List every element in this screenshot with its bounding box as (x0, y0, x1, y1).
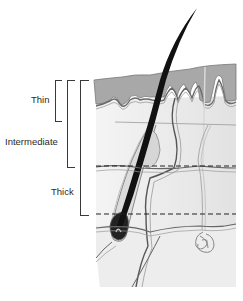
thick-bracket (80, 80, 89, 216)
skin-cross-section-illustration (0, 0, 243, 301)
intermediate-bracket (67, 80, 75, 168)
intermediate-label: Intermediate (5, 137, 58, 147)
thick-label: Thick (51, 187, 74, 197)
thin-bracket (55, 80, 62, 122)
skin-graft-diagram: Thin Intermediate Thick (0, 0, 243, 301)
thin-label: Thin (31, 95, 49, 105)
